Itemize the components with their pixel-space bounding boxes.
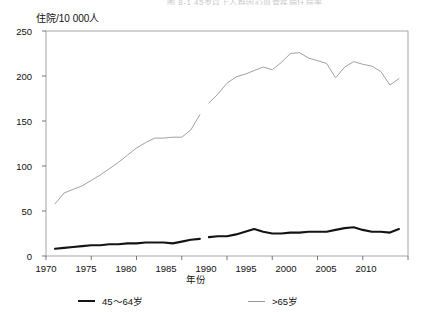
y-tick-50: 50 — [6, 206, 32, 217]
x-tick-1985: 1985 — [146, 263, 186, 274]
legend-label-65-plus: >65岁 — [272, 294, 298, 308]
y-tick-0: 0 — [6, 251, 32, 262]
chart-figure: 图 8-1 45岁以上人群因心血管疾病住院率 住院/10 000人 0 50 1… — [0, 0, 425, 312]
y-tick-100: 100 — [6, 161, 32, 172]
x-axis-title: 年份 — [186, 272, 206, 286]
legend-label-45-64: 45～64岁 — [102, 294, 143, 308]
x-tick-1975: 1975 — [66, 263, 106, 274]
legend-item-45-64: 45～64岁 — [78, 294, 143, 308]
y-tick-250: 250 — [6, 26, 32, 37]
x-tick-1970: 1970 — [26, 263, 66, 274]
legend-line-icon-65-plus — [248, 301, 265, 302]
chart-legend: 45～64岁 >65岁 — [0, 294, 425, 312]
y-tick-200: 200 — [6, 71, 32, 82]
legend-item-65-plus: >65岁 — [248, 294, 298, 308]
x-tick-2005: 2005 — [306, 263, 346, 274]
legend-line-icon-45-64 — [78, 300, 95, 302]
x-tick-2000: 2000 — [266, 263, 306, 274]
y-tick-150: 150 — [6, 116, 32, 127]
x-tick-2010: 2010 — [346, 263, 386, 274]
x-tick-1995: 1995 — [226, 263, 266, 274]
x-tick-1980: 1980 — [106, 263, 146, 274]
